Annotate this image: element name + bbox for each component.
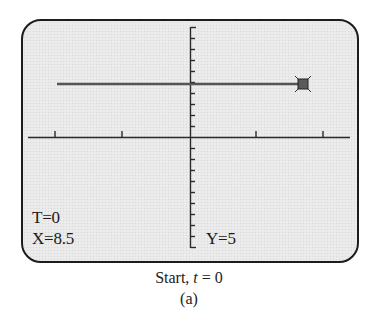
- caption-prefix: Start,: [155, 269, 193, 286]
- figure-caption: Start, t = 0: [0, 269, 378, 287]
- x-value-label: X=8.5: [32, 230, 74, 247]
- y-value-label: Y=5: [206, 230, 236, 247]
- x-axis: [28, 131, 350, 138]
- caption-equals: = 0: [198, 269, 223, 286]
- t-value-label: T=0: [32, 209, 60, 226]
- figure-sublabel: (a): [0, 290, 378, 308]
